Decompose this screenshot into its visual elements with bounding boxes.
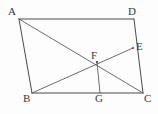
segment-AB (19, 19, 32, 93)
vertex-label-B: B (23, 93, 30, 104)
segment-DC (134, 19, 143, 93)
segment-BE (32, 48, 133, 93)
vertex-dot-E (132, 47, 134, 49)
vertex-label-A: A (8, 6, 16, 17)
vertex-label-E: E (136, 41, 143, 52)
geometry-figure: A D E F B G C (0, 0, 158, 114)
vertex-label-F: F (91, 50, 97, 61)
vertex-label-C: C (144, 93, 151, 104)
vertex-label-D: D (128, 6, 136, 17)
segment-AC (19, 19, 143, 93)
vertex-label-G: G (95, 93, 103, 104)
vertex-dot-F (96, 61, 98, 63)
